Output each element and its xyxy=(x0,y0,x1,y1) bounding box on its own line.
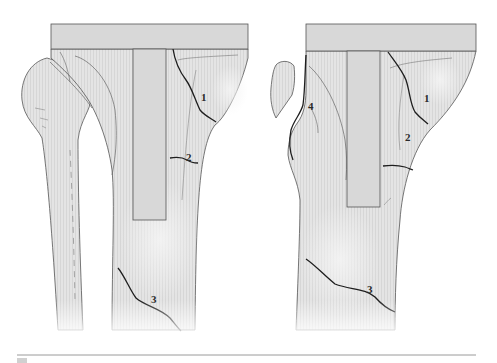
label-1: 1 xyxy=(201,91,207,103)
fibula-bone xyxy=(22,58,90,330)
right-view: 4 1 2 3 xyxy=(271,24,476,330)
plate-stem-right xyxy=(347,51,380,207)
plate-top-right xyxy=(306,24,476,51)
bone-fragment xyxy=(271,61,295,118)
label-3-right: 3 xyxy=(367,283,373,295)
label-4: 4 xyxy=(308,100,314,112)
fracture-diagram: 1 2 3 4 1 2 3 xyxy=(0,0,497,363)
label-2: 2 xyxy=(186,151,192,163)
label-1-right: 1 xyxy=(424,92,430,104)
left-view: 1 2 3 xyxy=(22,24,248,331)
plate-top xyxy=(51,24,248,49)
rule-marker xyxy=(17,358,27,363)
label-2-right: 2 xyxy=(405,131,411,143)
plate-stem xyxy=(133,49,166,220)
